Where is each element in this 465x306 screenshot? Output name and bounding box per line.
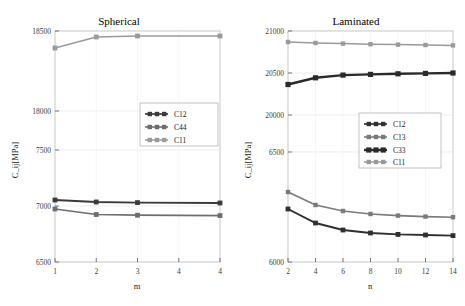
data-point — [341, 228, 346, 233]
y-tick-label: 20500 — [265, 69, 284, 78]
data-point — [94, 212, 99, 217]
data-point — [218, 34, 223, 39]
data-point — [451, 233, 456, 238]
x-tick-label: 12 — [422, 267, 430, 276]
data-point — [286, 207, 291, 212]
x-tick-label: 14 — [449, 267, 457, 276]
data-point — [313, 203, 317, 207]
legend-label: C44 — [174, 123, 187, 132]
data-point — [451, 43, 455, 47]
y-tick-label: 6500 — [269, 148, 284, 157]
data-point — [135, 200, 140, 205]
x-axis-label: m — [134, 281, 141, 291]
data-point — [423, 214, 427, 218]
data-point — [218, 201, 223, 206]
legend-label: C11 — [174, 136, 186, 145]
legend-laminated: C12 C13 C33 — [359, 113, 441, 168]
data-point — [396, 232, 401, 237]
data-point — [368, 72, 373, 77]
data-point — [368, 42, 372, 46]
x-tick-label: 3 — [136, 267, 140, 276]
panel-laminated: Laminated — [233, 0, 465, 306]
x-tick-label: 8 — [369, 267, 373, 276]
data-point — [313, 221, 318, 226]
legend-label: C11 — [393, 158, 405, 167]
data-point — [451, 215, 455, 219]
y-tick-label: 21000 — [265, 27, 284, 36]
data-point — [286, 40, 290, 44]
y-tick-label: 18500 — [32, 27, 51, 36]
data-point — [396, 213, 400, 217]
legend-label: C33 — [393, 146, 406, 155]
figure-container: Spherical — [0, 0, 465, 306]
x-tick-label: 4 — [218, 267, 222, 276]
data-point — [423, 71, 428, 76]
data-point — [450, 70, 455, 75]
data-point — [94, 200, 99, 205]
x-tick-label: 2 — [94, 267, 98, 276]
data-point — [135, 213, 140, 218]
data-point — [53, 46, 58, 51]
data-point — [395, 71, 400, 76]
x-tick-label: 4 — [314, 267, 318, 276]
legend-label: C12 — [174, 110, 187, 119]
x-axis-label: n — [368, 281, 373, 291]
x-tick-label: 1 — [53, 267, 57, 276]
plot-laminated: Laminated — [233, 0, 465, 306]
panel-title-laminated: Laminated — [332, 15, 380, 27]
legend-label: C13 — [393, 133, 406, 142]
data-point — [313, 75, 318, 80]
plot-spherical: Spherical — [0, 0, 232, 306]
data-point — [53, 207, 58, 212]
y-axis-label: C_ij[MPa] — [243, 142, 253, 179]
data-point — [396, 42, 400, 46]
data-point — [423, 233, 428, 238]
data-point — [53, 198, 58, 203]
data-point — [341, 209, 345, 213]
data-point — [340, 73, 345, 78]
panel-spherical: Spherical — [0, 0, 232, 306]
data-point — [423, 43, 427, 47]
x-tick-label: 2 — [286, 267, 290, 276]
y-tick-label: 20000 — [265, 111, 284, 120]
y-tick-label: 6000 — [269, 258, 284, 267]
y-tick-label: 7000 — [36, 202, 51, 211]
data-point — [94, 35, 99, 40]
y-tick-label: 6500 — [36, 258, 51, 267]
y-tick-label: 18000 — [32, 107, 51, 116]
data-point — [368, 212, 372, 216]
data-point — [313, 41, 317, 45]
data-point — [285, 82, 290, 87]
x-tick-label: 6 — [341, 267, 345, 276]
legend-spherical: C12 C44 C11 — [140, 103, 218, 146]
x-tick-label: 10 — [394, 267, 402, 276]
y-axis-label: C_ij[MPa] — [10, 142, 20, 179]
data-point — [218, 213, 223, 218]
y-tick-label: 7500 — [36, 146, 51, 155]
data-point — [135, 34, 140, 39]
data-point — [286, 190, 290, 194]
data-point — [368, 231, 373, 236]
panel-title-spherical: Spherical — [98, 15, 140, 27]
x-tick-label: 4 — [177, 267, 181, 276]
legend-label: C12 — [393, 120, 406, 129]
data-point — [341, 41, 345, 45]
